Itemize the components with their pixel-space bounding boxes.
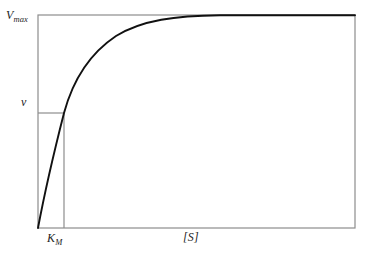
km-subscript: M <box>55 237 62 247</box>
km-base: K <box>47 231 55 245</box>
plot-area <box>0 0 369 260</box>
x-axis-label: [S] <box>183 230 199 245</box>
vmax-base: V <box>6 8 14 22</box>
y-axis-vmax-label: Vmax <box>6 8 28 23</box>
michaelis-menten-figure: Vmax v KM [S] <box>0 0 369 260</box>
y-axis-v-label: v <box>21 95 27 110</box>
saturation-curve <box>38 15 355 228</box>
x-axis-km-label: KM <box>47 231 62 246</box>
vmax-subscript: max <box>14 14 28 24</box>
plot-frame <box>38 15 355 228</box>
